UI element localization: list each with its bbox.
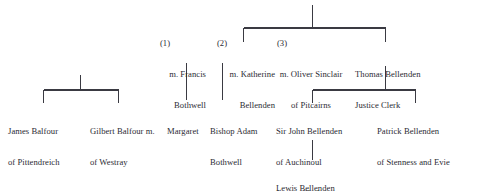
- node-bishop-adam-bothwell: Bishop Adam Bothwell: [210, 105, 284, 188]
- node-james-balfour-line2: of Pittendreich: [8, 157, 86, 167]
- node-oliver-sinclair-line1: m. Oliver Sinclair: [269, 69, 353, 79]
- node-bishop-adam-bothwell-line2: Bothwell: [210, 157, 284, 167]
- node-james-balfour-line1: James Balfour: [8, 126, 86, 136]
- node-bishop-adam-bothwell-line1: Bishop Adam: [210, 126, 284, 136]
- marriage-index-3: (3): [277, 38, 287, 48]
- marriage-index-1: (1): [160, 38, 170, 48]
- node-patrick-bellenden: Patrick Bellenden of Stenness and Evie: [377, 105, 475, 188]
- node-gilbert-balfour-line2: of Westray: [90, 157, 180, 167]
- genealogy-chart: (1) m. Francis Bothwell (2) m. Katherine…: [0, 0, 478, 191]
- node-lewis-bellenden-line1: Lewis Bellenden: [276, 183, 366, 191]
- node-thomas-bellenden-line1: Thomas Bellenden: [355, 69, 441, 79]
- node-francis-bothwell-line1: m. Francis: [140, 69, 206, 79]
- node-sir-john-bellenden-line1: Sir John Bellenden: [276, 126, 366, 136]
- marriage-index-2: (2): [217, 38, 227, 48]
- node-patrick-bellenden-line1: Patrick Bellenden: [377, 126, 475, 136]
- node-lewis-bellenden: Lewis Bellenden Justice Clerk: [276, 162, 366, 191]
- node-katherine-bellenden-line1: m. Katherine: [209, 69, 275, 79]
- node-patrick-bellenden-line2: of Stenness and Evie: [377, 157, 475, 167]
- node-james-balfour: James Balfour of Pittendreich: [8, 105, 86, 188]
